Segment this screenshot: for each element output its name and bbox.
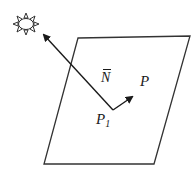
- point-p1-base: P: [96, 111, 105, 127]
- diagram-canvas: [0, 0, 196, 174]
- vector-bar-mark: [103, 69, 111, 70]
- p1-to-p-vector-arrow: [113, 97, 132, 110]
- sun-icon: [13, 13, 39, 35]
- point-p1-subscript: 1: [105, 118, 110, 129]
- normal-label: N: [101, 71, 110, 85]
- point-p1-label: P1: [96, 112, 110, 129]
- plane-parallelogram: [44, 36, 190, 164]
- point-p-label: P: [140, 74, 149, 89]
- normal-label-text: N: [101, 70, 110, 85]
